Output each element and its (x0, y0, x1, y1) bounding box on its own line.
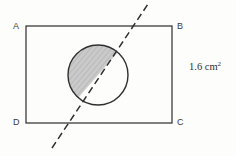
area-unit: cm (205, 61, 218, 72)
area-value: 1.6 (189, 61, 202, 72)
geometry-diagram (0, 0, 236, 156)
shaded-circle-segment (40, 20, 118, 98)
rectangle-abcd (26, 26, 172, 123)
vertex-label-b: B (177, 22, 183, 31)
vertex-label-a: A (13, 22, 19, 31)
shaded-region-fill (40, 20, 118, 98)
geometry-figure: A B C D 1.6 cm2 (0, 0, 236, 156)
vertex-label-c: C (177, 118, 184, 127)
area-annotation-label: 1.6 cm2 (189, 62, 221, 73)
vertex-label-d: D (13, 118, 20, 127)
area-exponent: 2 (218, 60, 222, 68)
